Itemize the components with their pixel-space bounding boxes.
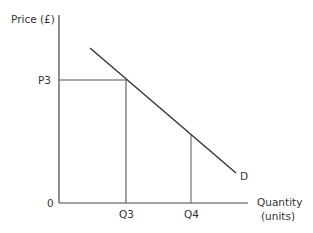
origin-label: 0 <box>47 198 54 209</box>
q3-label: Q3 <box>119 209 134 220</box>
x-axis-label-line2: (units) <box>261 211 295 222</box>
x-axis-label-line1: Quantity <box>257 197 302 208</box>
p3-label: P3 <box>38 75 51 86</box>
y-axis-label: Price (£) <box>11 14 55 25</box>
demand-curve <box>90 48 236 173</box>
q4-label: Q4 <box>184 209 199 220</box>
demand-curve-label: D <box>240 171 248 182</box>
